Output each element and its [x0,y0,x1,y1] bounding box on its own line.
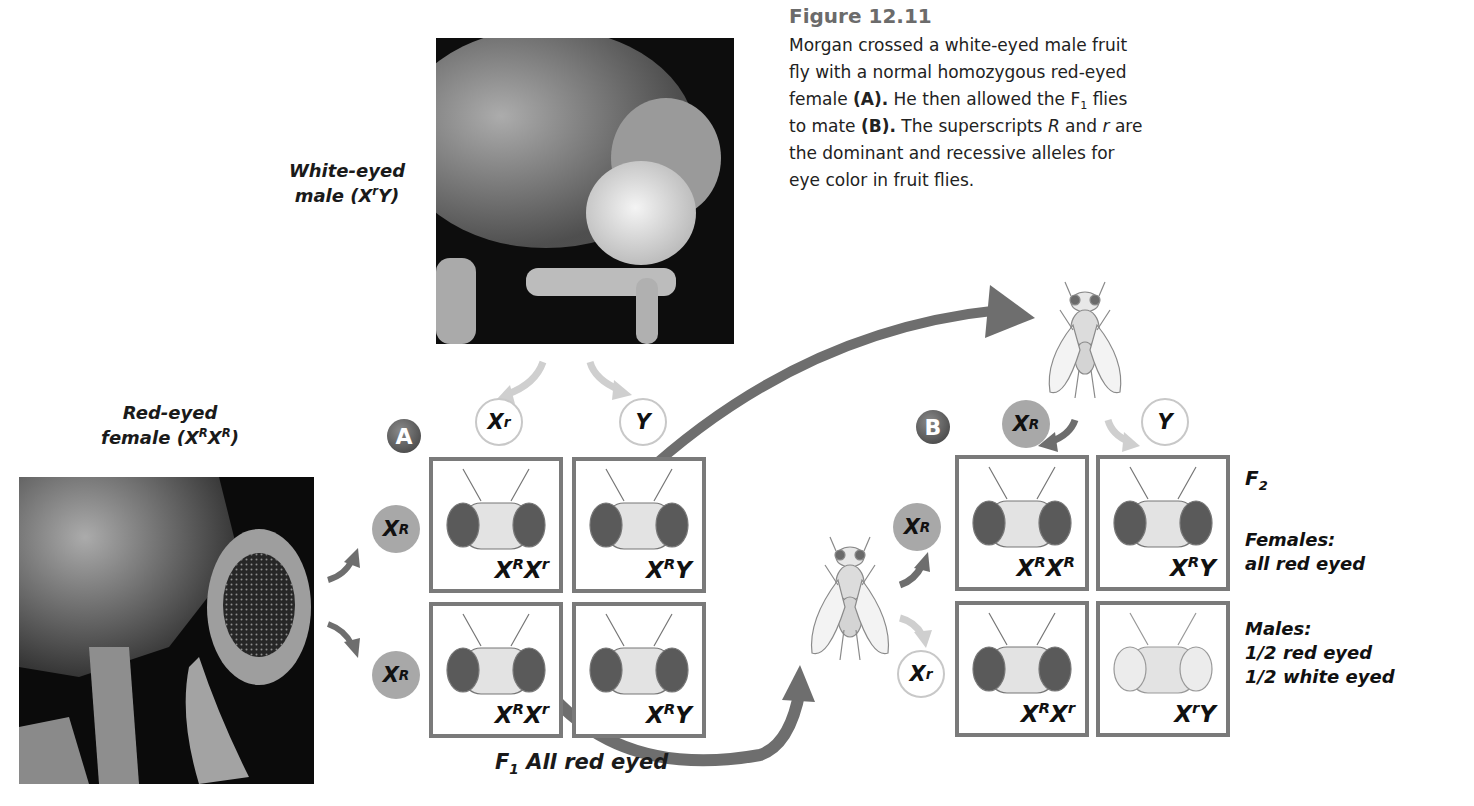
sub: 2 [1259,478,1268,493]
cell-genotype: XRY [646,702,692,728]
s: R [1188,553,1200,571]
punnett-b-cell-3: XRXr [955,601,1089,737]
punnett-a-cell-3: XRXr [429,602,563,738]
cell-genotype: XRXr [495,702,549,728]
s: R [512,700,524,718]
punnett-a-cell-4: XRY [572,602,706,738]
gamete-base: Y [1157,410,1172,434]
g: X [524,702,542,728]
cross-b-badge: B [916,410,950,444]
punnett-a-cell-2: XRY [572,457,706,593]
s: r [542,700,549,718]
g: X [646,557,664,583]
g: X [1170,555,1188,581]
gamete-b-top-2: Y [1141,398,1189,446]
arrowhead-icon [612,380,632,400]
f1-female-fly-drawing-icon [800,535,900,670]
f1-male-fly-drawing-icon [1035,280,1135,410]
punnett-b-cell-2: XRY [1096,455,1230,591]
badge-letter: B [925,415,942,440]
g: X [495,557,513,583]
g: X [1017,555,1035,581]
fly-head-red-eyes-icon [959,605,1085,705]
cell-genotype: XrY [1174,701,1216,727]
g: Y [1199,555,1216,581]
cell-genotype: XRY [646,557,692,583]
cell-genotype: XRXr [1021,701,1075,727]
gamete-base: X [383,663,399,687]
s: R [512,555,524,573]
s: R [664,700,676,718]
f1-result-label: F1 All red eyed [495,750,668,774]
gamete-base: Y [635,410,650,434]
arrowhead-icon [914,630,932,648]
gamete-a-side-1: XR [372,505,420,553]
t: F [1245,466,1259,490]
gamete-b-side-1: XR [893,503,941,551]
g: X [1174,701,1192,727]
f2-males-summary: Males: 1/2 red eyed 1/2 white eyed [1245,617,1395,689]
sub: 1 [509,761,519,777]
g: Y [675,557,692,583]
arrowhead-icon [985,285,1035,338]
s: r [542,555,549,573]
f2-females-summary: Females: all red eyed [1245,528,1365,576]
fly-head-red-eyes-icon [1100,459,1226,559]
g: Y [1199,701,1216,727]
gamete-base: X [1013,412,1029,436]
badge-letter: A [395,424,412,449]
punnett-b-cell-1: XRXR [955,455,1089,591]
gamete-b-side-2: Xr [897,650,945,698]
fly-head-red-eyes-icon [576,606,702,706]
punnett-b-cell-4: XrY [1096,601,1230,737]
g: X [1050,701,1068,727]
fly-head-red-eyes-icon [433,606,559,706]
arrowhead-icon [1122,432,1140,452]
cross-a-badge: A [387,419,421,453]
fly-head-white-eyes-icon [1100,605,1226,705]
t: F [495,750,509,774]
females-value: all red eyed [1245,552,1365,576]
s: R [1063,553,1075,571]
gamete-base: X [383,517,399,541]
s: R [664,555,676,573]
fly-head-red-eyes-icon [433,461,559,561]
g: X [646,702,664,728]
g: X [495,702,513,728]
cell-genotype: XRY [1170,555,1216,581]
f1-male-arrow-icon [640,310,1000,478]
f2-label: F2 [1245,466,1268,490]
g: Y [675,702,692,728]
cell-genotype: XRXR [1017,555,1076,581]
s: R [1038,699,1050,717]
gamete-base: X [904,515,920,539]
s: R [1034,553,1046,571]
males-title: Males: [1245,617,1395,641]
gamete-base: X [488,410,504,434]
fly-head-red-eyes-icon [576,461,702,561]
punnett-a-cell-1: XRXr [429,457,563,593]
g: X [1046,555,1064,581]
t: All red eyed [519,750,668,774]
females-title: Females: [1245,528,1365,552]
gamete-a-top-2: Y [619,398,667,446]
fly-head-red-eyes-icon [959,459,1085,559]
g: X [1021,701,1039,727]
gamete-a-top-1: Xr [475,398,523,446]
cell-genotype: XRXr [495,557,549,583]
g: X [524,557,542,583]
s: r [1068,699,1075,717]
arrowhead-icon [782,665,815,702]
males-line1: 1/2 red eyed [1245,641,1395,665]
gamete-b-top-1: XR [1002,400,1050,448]
gamete-a-side-2: XR [372,651,420,699]
males-line2: 1/2 white eyed [1245,665,1395,689]
gamete-base: X [910,662,926,686]
